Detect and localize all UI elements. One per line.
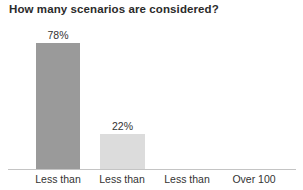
bar-group: 78% xyxy=(36,0,80,170)
x-axis-tick-label: Over 100 xyxy=(219,173,289,186)
x-axis-tick-label: Less than xyxy=(87,173,157,186)
bar-value-label: 22% xyxy=(100,120,145,132)
bar-group xyxy=(164,0,209,170)
plot-area: 78% 22% xyxy=(0,0,303,170)
chart-container: How many scenarios are considered? 78% 2… xyxy=(0,0,303,190)
bar-group: 22% xyxy=(100,0,145,170)
x-axis-tick-label: Less than xyxy=(23,173,93,186)
x-axis-line xyxy=(8,169,296,170)
bar-value-label: 78% xyxy=(36,29,80,41)
bar-group xyxy=(228,0,273,170)
x-axis-tick-label: Less than xyxy=(152,173,222,186)
bar[interactable] xyxy=(100,134,145,170)
x-axis-labels: Less than Less than Less than Over 100 xyxy=(0,173,303,190)
bar[interactable] xyxy=(36,43,80,170)
